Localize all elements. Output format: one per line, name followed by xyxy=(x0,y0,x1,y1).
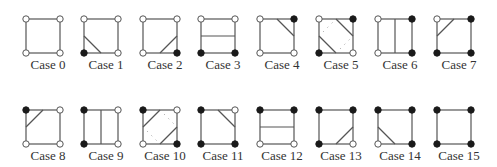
case-0: Case 0 xyxy=(26,19,82,89)
case-15: Case 15 xyxy=(437,110,493,167)
empty-vertex-bottom-left-icon xyxy=(140,50,146,56)
empty-vertex-bottom-left-icon xyxy=(140,141,146,147)
filled-vertex-bottom-right-icon xyxy=(174,141,180,147)
cell-square xyxy=(319,110,353,144)
filled-vertex-bottom-left-icon xyxy=(316,141,322,147)
cell-square xyxy=(201,19,235,53)
filled-vertex-bottom-left-icon xyxy=(198,50,204,56)
filled-vertex-top-right-icon xyxy=(409,107,415,113)
case-label: Case 10 xyxy=(137,148,193,164)
cell-square xyxy=(319,19,353,53)
filled-vertex-bottom-left-icon xyxy=(81,50,87,56)
empty-vertex-bottom-left-icon xyxy=(23,50,29,56)
cell-square xyxy=(378,19,412,53)
cell-square xyxy=(143,19,177,53)
case-label: Case 15 xyxy=(431,148,487,164)
case-2: Case 2 xyxy=(143,19,199,89)
filled-vertex-bottom-left-icon xyxy=(198,141,204,147)
filled-vertex-top-left-icon xyxy=(434,107,440,113)
cell-border xyxy=(319,19,353,53)
filled-vertex-bottom-right-icon xyxy=(232,50,238,56)
case-10: Case 10 xyxy=(143,110,199,167)
empty-vertex-top-left-icon xyxy=(23,16,29,22)
filled-vertex-top-right-icon xyxy=(468,16,474,22)
filled-vertex-bottom-left-icon xyxy=(434,141,440,147)
cell-border xyxy=(201,110,235,144)
filled-vertex-bottom-right-icon xyxy=(174,50,180,56)
empty-vertex-top-right-icon xyxy=(174,107,180,113)
empty-vertex-bottom-right-icon xyxy=(57,141,63,147)
case-3: Case 3 xyxy=(201,19,257,89)
empty-vertex-top-right-icon xyxy=(232,16,238,22)
cell-square xyxy=(378,110,412,144)
filled-vertex-top-right-icon xyxy=(350,16,356,22)
filled-vertex-top-left-icon xyxy=(140,107,146,113)
case-7: Case 7 xyxy=(437,19,493,89)
empty-vertex-top-right-icon xyxy=(57,107,63,113)
empty-vertex-top-right-icon xyxy=(232,107,238,113)
filled-vertex-top-left-icon xyxy=(198,107,204,113)
cell-square xyxy=(260,19,294,53)
case-13: Case 13 xyxy=(319,110,375,167)
case-label: Case 14 xyxy=(372,148,428,164)
cell-square xyxy=(84,19,118,53)
case-label: Case 4 xyxy=(254,57,310,73)
empty-vertex-bottom-right-icon xyxy=(291,50,297,56)
empty-vertex-bottom-left-icon xyxy=(257,141,263,147)
empty-vertex-top-left-icon xyxy=(140,16,146,22)
empty-vertex-bottom-right-icon xyxy=(350,141,356,147)
filled-vertex-bottom-right-icon xyxy=(409,141,415,147)
case-label: Case 3 xyxy=(195,57,251,73)
case-9: Case 9 xyxy=(84,110,140,167)
case-label: Case 8 xyxy=(20,148,76,164)
cell-square xyxy=(260,110,294,144)
filled-vertex-bottom-left-icon xyxy=(316,50,322,56)
empty-vertex-top-left-icon xyxy=(81,16,87,22)
filled-vertex-top-right-icon xyxy=(409,16,415,22)
empty-vertex-bottom-right-icon xyxy=(350,50,356,56)
filled-vertex-bottom-right-icon xyxy=(468,50,474,56)
empty-vertex-bottom-left-icon xyxy=(375,141,381,147)
case-12: Case 12 xyxy=(260,110,316,167)
case-label: Case 2 xyxy=(137,57,193,73)
cell-border xyxy=(143,19,177,53)
empty-vertex-top-right-icon xyxy=(115,107,121,113)
cell-border xyxy=(437,110,471,144)
case-4: Case 4 xyxy=(260,19,316,89)
empty-vertex-top-left-icon xyxy=(257,16,263,22)
empty-vertex-bottom-right-icon xyxy=(291,141,297,147)
filled-vertex-bottom-right-icon xyxy=(232,141,238,147)
cell-border xyxy=(26,110,60,144)
filled-vertex-top-left-icon xyxy=(316,107,322,113)
filled-vertex-top-left-icon xyxy=(257,107,263,113)
cell-border xyxy=(143,110,177,144)
cell-square xyxy=(437,110,471,144)
empty-vertex-bottom-right-icon xyxy=(115,50,121,56)
cell-square xyxy=(26,110,60,144)
cell-square xyxy=(201,110,235,144)
empty-vertex-bottom-right-icon xyxy=(57,50,63,56)
case-14: Case 14 xyxy=(378,110,434,167)
cell-border xyxy=(84,19,118,53)
case-label: Case 7 xyxy=(431,57,487,73)
cell-border xyxy=(378,110,412,144)
filled-vertex-top-left-icon xyxy=(23,107,29,113)
filled-vertex-bottom-left-icon xyxy=(81,141,87,147)
filled-vertex-top-left-icon xyxy=(81,107,87,113)
filled-vertex-top-right-icon xyxy=(350,107,356,113)
marching-squares-diagram: Case 0Case 1Case 2Case 3Case 4Case 5Case… xyxy=(0,0,497,167)
filled-vertex-top-left-icon xyxy=(375,107,381,113)
cell-border xyxy=(319,110,353,144)
empty-vertex-bottom-left-icon xyxy=(257,50,263,56)
case-8: Case 8 xyxy=(26,110,82,167)
case-6: Case 6 xyxy=(378,19,434,89)
filled-vertex-top-right-icon xyxy=(291,107,297,113)
case-label: Case 1 xyxy=(78,57,134,73)
filled-vertex-bottom-right-icon xyxy=(468,141,474,147)
empty-vertex-top-left-icon xyxy=(375,16,381,22)
empty-vertex-top-right-icon xyxy=(57,16,63,22)
cell-border xyxy=(437,19,471,53)
cell-square xyxy=(26,19,60,53)
filled-vertex-top-right-icon xyxy=(291,16,297,22)
cell-square xyxy=(84,110,118,144)
